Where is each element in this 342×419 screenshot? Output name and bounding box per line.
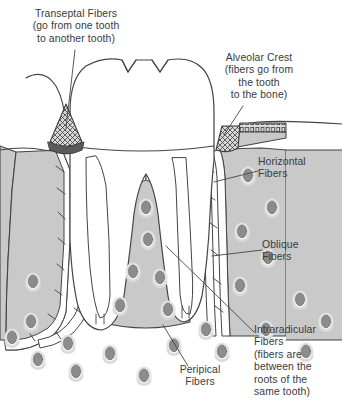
label-transeptal-fibers: Transeptal Fibers (go from one tooth to … — [12, 8, 140, 45]
label-oblique-fibers: Oblique Fibers — [262, 239, 336, 264]
label-peripical-fibers: Peripical Fibers — [160, 364, 240, 389]
label-horizontal-fibers: Horizontal Fibers — [258, 156, 338, 181]
label-intraradicular-fibers: Intraradicular Fibers (fibers are betwee… — [254, 324, 342, 398]
label-alveolar-crest: Alveolar Crest (fibers go from the tooth… — [203, 52, 315, 102]
diagram-canvas: Transeptal Fibers (go from one tooth to … — [0, 0, 342, 419]
